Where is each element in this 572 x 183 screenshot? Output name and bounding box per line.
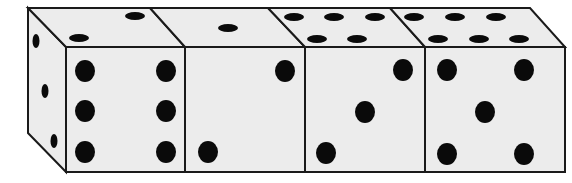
dice-figure <box>0 0 572 183</box>
die-2-top-pips <box>218 24 238 32</box>
